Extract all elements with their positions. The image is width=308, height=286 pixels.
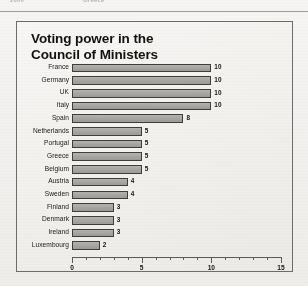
bar: [72, 165, 142, 174]
bar-row: Sweden4: [17, 189, 294, 202]
bar-value-label: 5: [145, 127, 149, 134]
bar-row: Italy10: [17, 100, 294, 113]
bar: [72, 64, 211, 73]
x-axis-minor-tick: [86, 257, 87, 260]
bar: [72, 102, 211, 111]
horizontal-rule: [0, 11, 308, 12]
bar-value-label: 4: [131, 177, 135, 184]
bar: [72, 114, 183, 123]
bar-category-label: Greece: [17, 152, 69, 159]
bar: [72, 76, 211, 85]
x-axis-minor-tick: [239, 257, 240, 260]
bar-row: France10: [17, 62, 294, 75]
bar-category-label: Luxembourg: [17, 241, 69, 248]
bar-category-label: UK: [17, 88, 69, 95]
x-axis-minor-tick: [197, 257, 198, 260]
bar: [72, 89, 211, 98]
bar-value-label: 5: [145, 165, 149, 172]
bar-category-label: Austria: [17, 177, 69, 184]
bar-row: Denmark3: [17, 214, 294, 227]
bar-row: Germany10: [17, 75, 294, 88]
bar-value-label: 10: [214, 101, 221, 108]
bar-value-label: 5: [145, 139, 149, 146]
bar-category-label: Germany: [17, 76, 69, 83]
bar: [72, 140, 142, 149]
table-remnant-right-cell: Greece: [83, 0, 105, 3]
x-axis-minor-tick: [100, 257, 101, 260]
x-axis-tick-label: 0: [70, 264, 74, 271]
bar: [72, 241, 100, 250]
bar-row: Luxembourg2: [17, 240, 294, 253]
bar-category-label: Spain: [17, 114, 69, 121]
bar-value-label: 8: [186, 114, 190, 121]
bar-category-label: Netherlands: [17, 127, 69, 134]
bar-row: Portugal5: [17, 138, 294, 151]
x-axis-tick-label: 15: [277, 264, 284, 271]
bar-category-label: Italy: [17, 101, 69, 108]
bar-value-label: 4: [131, 190, 135, 197]
bar-row: UK10: [17, 87, 294, 100]
x-axis-minor-tick: [225, 257, 226, 260]
bar-value-label: 2: [103, 241, 107, 248]
bar-category-label: Belgium: [17, 165, 69, 172]
bar-category-label: Denmark: [17, 215, 69, 222]
chart-title: Voting power in the Council of Ministers: [31, 31, 271, 63]
bar-row: Belgium5: [17, 164, 294, 177]
x-axis-minor-tick: [253, 257, 254, 260]
x-axis-minor-tick: [128, 257, 129, 260]
x-axis-tick-label: 5: [140, 264, 144, 271]
bar-row: Austria4: [17, 176, 294, 189]
x-axis-tick-label: 10: [208, 264, 215, 271]
bar: [72, 178, 128, 187]
x-axis-minor-tick: [114, 257, 115, 260]
x-axis-minor-tick: [156, 257, 157, 260]
bar-category-label: Portugal: [17, 139, 69, 146]
bar: [72, 191, 128, 200]
x-axis-major-tick: [142, 257, 143, 263]
bar-category-label: France: [17, 63, 69, 70]
bar-row: Spain8: [17, 113, 294, 126]
bar-category-label: Ireland: [17, 228, 69, 235]
bar-row: Finland3: [17, 202, 294, 215]
plot-area: France10Germany10UK10Italy10Spain8Nether…: [17, 60, 294, 270]
x-axis-minor-tick: [170, 257, 171, 260]
bar-value-label: 5: [145, 152, 149, 159]
bar-category-label: Finland: [17, 203, 69, 210]
bar-row: Ireland3: [17, 227, 294, 240]
bar-row: Netherlands5: [17, 126, 294, 139]
bar-value-label: 3: [117, 203, 121, 210]
x-axis-minor-tick: [267, 257, 268, 260]
x-axis-line: [72, 257, 281, 258]
bar-value-label: 3: [117, 216, 121, 223]
x-axis-major-tick: [72, 257, 73, 263]
x-axis-major-tick: [211, 257, 212, 263]
chart-figure: Voting power in the Council of Ministers…: [16, 21, 293, 272]
bar-value-label: 10: [214, 63, 221, 70]
bar: [72, 216, 114, 225]
bar: [72, 152, 142, 161]
bar-value-label: 3: [117, 228, 121, 235]
x-axis-major-tick: [281, 257, 282, 263]
bar-value-label: 10: [214, 89, 221, 96]
page-background: 2000 Greece Voting power in the Council …: [0, 0, 308, 286]
x-axis-minor-tick: [183, 257, 184, 260]
bar: [72, 203, 114, 212]
bar-value-label: 10: [214, 76, 221, 83]
table-remnant-above-figure: 2000 Greece: [0, 0, 308, 14]
table-remnant-left-cell: 2000: [10, 0, 24, 3]
bar-row: Greece5: [17, 151, 294, 164]
bar: [72, 127, 142, 136]
bar-category-label: Sweden: [17, 190, 69, 197]
bar: [72, 229, 114, 238]
